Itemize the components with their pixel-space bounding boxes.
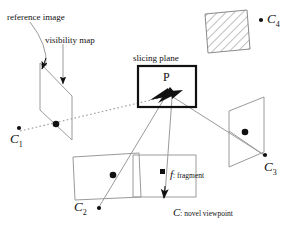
camera-dot-c1 bbox=[17, 126, 21, 130]
label-camera-c3: C3 bbox=[264, 160, 277, 177]
label-reference-image: reference image bbox=[7, 13, 65, 22]
dot-reference-plane bbox=[53, 121, 60, 128]
camera-dot-c4 bbox=[259, 18, 263, 22]
label-slicing-plane: slicing plane bbox=[133, 54, 179, 63]
label-point-p: P bbox=[163, 71, 170, 83]
label-camera-c1-sub: 1 bbox=[19, 140, 23, 149]
label-camera-c2-name: C bbox=[74, 199, 83, 214]
label-camera-c4-name: C bbox=[267, 11, 276, 26]
figure-canvas: reference image visibility map slicing p… bbox=[0, 0, 295, 229]
dot-plane-c3 bbox=[242, 129, 249, 136]
label-novel-viewpoint-text: : novel viewpoint bbox=[180, 209, 233, 218]
p-arrow-right bbox=[170, 90, 183, 99]
ray-c3-to-p bbox=[173, 97, 264, 155]
label-camera-c4: C4 bbox=[267, 12, 280, 29]
label-camera-c1-name: C bbox=[10, 131, 19, 146]
label-camera-c3-name: C bbox=[264, 159, 273, 174]
camera-dot-c3 bbox=[263, 153, 267, 157]
ray-c2-to-p bbox=[99, 99, 164, 207]
label-novel-viewpoint: C: novel viewpoint bbox=[173, 203, 233, 219]
camera-dot-c2 bbox=[97, 206, 101, 210]
reference-image-plane bbox=[40, 63, 72, 140]
label-fragment: f: fragment bbox=[170, 165, 204, 181]
ray-c1-to-p bbox=[20, 96, 168, 131]
ray-fragment-to-camera bbox=[164, 186, 165, 198]
dot-fragment bbox=[160, 169, 165, 174]
label-camera-c1: C1 bbox=[10, 132, 23, 149]
hatched-plane-c4 bbox=[205, 10, 250, 53]
dot-plane-c2 bbox=[110, 172, 117, 179]
label-fragment-text: : fragment bbox=[173, 171, 204, 180]
label-camera-c2: C2 bbox=[74, 200, 87, 217]
leader-reference-image bbox=[30, 22, 46, 66]
label-camera-c3-sub: 3 bbox=[273, 168, 277, 177]
label-camera-c4-sub: 4 bbox=[276, 20, 280, 29]
label-camera-c2-sub: 2 bbox=[83, 208, 87, 217]
label-visibility-map: visibility map bbox=[45, 36, 95, 45]
